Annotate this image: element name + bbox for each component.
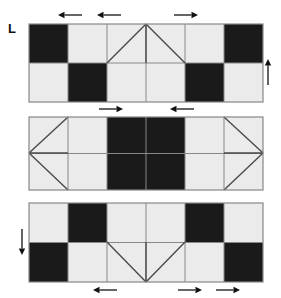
cell-light — [68, 117, 107, 154]
arrow-head — [93, 287, 100, 293]
cell-dark — [224, 24, 263, 63]
arrow-top-1 — [58, 12, 82, 18]
cell-light — [68, 154, 107, 191]
cell-light — [68, 243, 107, 283]
arrow-head — [234, 287, 241, 293]
cell-dark — [107, 117, 146, 154]
arrow-head — [58, 12, 65, 18]
cell-light — [224, 63, 263, 102]
arrow-top-3 — [174, 12, 198, 18]
arrow-head — [192, 12, 199, 18]
cell-dark — [29, 24, 68, 63]
cell-light — [68, 24, 107, 63]
cell-dark — [107, 154, 146, 191]
arrow-top-2 — [97, 12, 121, 18]
cell-light — [107, 203, 146, 243]
figure-label: L — [8, 22, 16, 35]
arrow-right-up — [265, 59, 271, 85]
cell-light — [29, 63, 68, 102]
arrow-head — [265, 59, 271, 66]
cell-light — [185, 243, 224, 283]
cell-light — [185, 24, 224, 63]
cell-light — [146, 63, 185, 102]
cell-dark — [29, 243, 68, 283]
cell-dark — [224, 243, 263, 283]
panel-bottom — [29, 203, 263, 282]
cell-light — [185, 154, 224, 191]
cell-light — [185, 117, 224, 154]
cell-dark — [185, 203, 224, 243]
cell-dark — [146, 154, 185, 191]
arrow-head — [170, 106, 177, 112]
cell-dark — [68, 203, 107, 243]
panel-middle — [29, 117, 263, 190]
arrow-mid-1 — [99, 106, 123, 112]
cell-dark — [68, 63, 107, 102]
cell-light — [146, 203, 185, 243]
arrow-bottom-2 — [178, 287, 202, 293]
arrow-head — [19, 249, 25, 256]
cell-light — [224, 203, 263, 243]
cell-dark — [185, 63, 224, 102]
arrow-left-down — [19, 229, 25, 255]
cell-dark — [146, 117, 185, 154]
arrow-bottom-1 — [93, 287, 117, 293]
arrow-head — [97, 12, 104, 18]
arrow-bottom-3 — [216, 287, 240, 293]
tiling-diagram — [0, 0, 281, 298]
arrow-mid-2 — [170, 106, 194, 112]
figure-canvas — [0, 0, 281, 298]
cell-light — [107, 63, 146, 102]
arrow-head — [117, 106, 124, 112]
arrow-head — [196, 287, 203, 293]
cell-light — [29, 203, 68, 243]
panel-top — [29, 24, 263, 102]
